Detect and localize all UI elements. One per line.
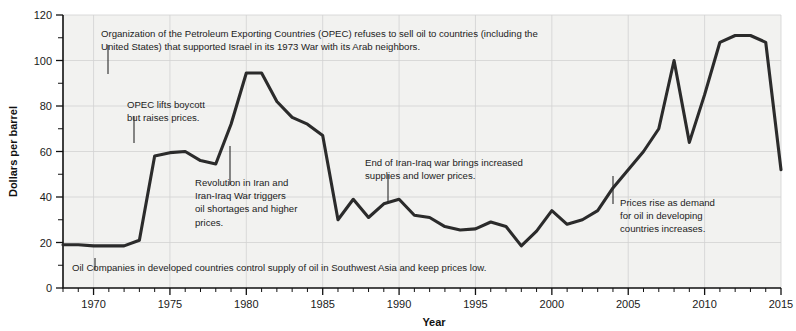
y-tick-label: 80 <box>40 100 52 112</box>
y-tick-label: 100 <box>34 55 52 67</box>
y-tick-label: 40 <box>40 191 52 203</box>
x-axis-title: Year <box>422 316 446 328</box>
x-tick-label: 1980 <box>234 298 258 310</box>
annotation-oil-companies-control: Oil Companies in developed countries con… <box>72 262 486 273</box>
x-tick-label: 2005 <box>616 298 640 310</box>
x-tick-label: 2015 <box>769 298 793 310</box>
y-tick-label: 60 <box>40 146 52 158</box>
y-axis-title: Dollars per barrel <box>7 106 19 197</box>
x-tick-label: 2010 <box>692 298 716 310</box>
y-tick-label: 120 <box>34 9 52 21</box>
x-tick-label: 1970 <box>81 298 105 310</box>
x-tick-label: 1995 <box>463 298 487 310</box>
chart-figure: 020406080100120Dollars per barrel1970197… <box>0 0 796 331</box>
oil-price-line-chart: 020406080100120Dollars per barrel1970197… <box>0 0 796 331</box>
x-tick-label: 1990 <box>387 298 411 310</box>
annotation-developing-demand: Prices rise as demandfor oil in developi… <box>620 197 715 234</box>
x-tick-label: 1975 <box>158 298 182 310</box>
x-tick-label: 2000 <box>540 298 564 310</box>
y-tick-label: 0 <box>46 282 52 294</box>
y-tick-label: 20 <box>40 237 52 249</box>
x-tick-label: 1985 <box>310 298 334 310</box>
